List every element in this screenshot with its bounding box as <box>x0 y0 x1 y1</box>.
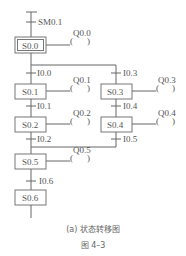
transition-label-i02: I0.2 <box>37 134 51 144</box>
transition-label-i06: I0.6 <box>39 176 54 186</box>
transition-label-i03: I0.3 <box>123 68 138 78</box>
transition-label-i05: I0.5 <box>123 134 138 144</box>
subtitle-caption: (a) 状态转移图 <box>66 224 120 234</box>
figure-caption: 图 4–3 <box>81 241 106 250</box>
step-s04-label: S0.4 <box>107 120 124 130</box>
transition-label-i04: I0.4 <box>123 101 138 111</box>
sfc-diagram: SM0.1 S0.0 ( ) Q0.0 I0.0 S0.1 ( ) Q0.1 I… <box>0 0 186 256</box>
transition-label-sm01: SM0.1 <box>38 17 62 27</box>
transition-label-i01: I0.1 <box>37 101 51 111</box>
step-s06-label: S0.6 <box>22 193 39 203</box>
step-s00-label: S0.0 <box>22 41 39 51</box>
output-label-q05: Q0.5 <box>73 145 91 155</box>
transition-label-i00: I0.0 <box>37 68 52 78</box>
step-s03-label: S0.3 <box>107 87 124 97</box>
step-s01-label: S0.1 <box>22 87 38 97</box>
step-s02-label: S0.2 <box>22 120 38 130</box>
output-label-q02: Q0.2 <box>73 108 91 118</box>
output-label-q03: Q0.3 <box>158 75 176 85</box>
output-label-q01: Q0.1 <box>73 75 91 85</box>
step-s05-label: S0.5 <box>22 157 39 167</box>
output-label-q00: Q0.0 <box>73 28 91 38</box>
output-label-q04: Q0.4 <box>158 108 176 118</box>
